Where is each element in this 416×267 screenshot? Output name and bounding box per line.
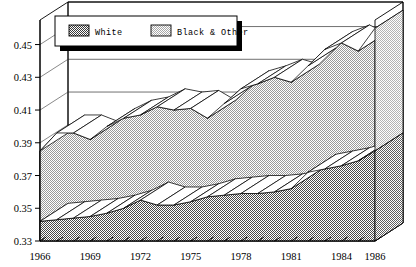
x-tick-label: 1984 bbox=[331, 251, 353, 262]
x-tick-label: 1975 bbox=[180, 251, 201, 262]
x-tick-label: 1966 bbox=[30, 251, 51, 262]
x-tick-label: 1972 bbox=[130, 251, 151, 262]
y-tick-label: 0.45 bbox=[14, 40, 32, 51]
x-tick-label: 1981 bbox=[281, 251, 302, 262]
y-tick-label: 0.43 bbox=[14, 72, 32, 83]
chart-legend: WhiteBlack & Other bbox=[55, 16, 249, 51]
y-tick-label: 0.33 bbox=[14, 236, 32, 247]
legend-swatch-black-other bbox=[151, 25, 171, 36]
y-tick-label: 0.35 bbox=[14, 203, 32, 214]
x-tick-label: 1986 bbox=[365, 251, 386, 262]
y-tick-label: 0.41 bbox=[14, 105, 32, 116]
chart-container: 0.330.350.370.390.410.430.45 19661969197… bbox=[0, 0, 416, 267]
y-tick-label: 0.39 bbox=[14, 138, 32, 149]
legend-label-white: White bbox=[95, 28, 123, 38]
legend-label-black-other: Black & Other bbox=[177, 28, 249, 38]
y-tick-label: 0.37 bbox=[14, 171, 32, 182]
stacked-area-chart: 0.330.350.370.390.410.430.45 19661969197… bbox=[0, 0, 416, 267]
x-tick-label: 1969 bbox=[80, 251, 101, 262]
legend-swatch-white bbox=[69, 25, 89, 36]
x-tick-label: 1978 bbox=[231, 251, 252, 262]
